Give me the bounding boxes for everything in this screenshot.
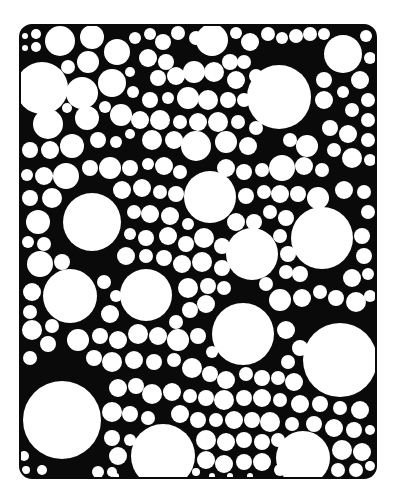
pattern-circle (61, 60, 75, 74)
pattern-circle (236, 454, 252, 470)
pattern-circle (104, 39, 130, 65)
pattern-circle (150, 70, 166, 86)
pattern-circle (255, 163, 269, 177)
pattern-circle (125, 67, 135, 77)
pattern-circle (351, 401, 369, 419)
pattern-circle (92, 466, 104, 478)
pattern-circle (361, 133, 375, 147)
pattern-circle (162, 92, 174, 104)
pattern-circle (212, 303, 274, 365)
pattern-circle (22, 236, 34, 248)
pattern-circle (339, 125, 357, 143)
pattern-circle (292, 266, 308, 282)
pattern-circle (22, 190, 38, 206)
pattern-circle (122, 406, 138, 422)
pattern-circle (364, 154, 376, 166)
pattern-circle (312, 396, 328, 412)
pattern-circle (342, 148, 362, 168)
pattern-circle (271, 371, 285, 385)
pattern-circle (283, 133, 297, 147)
pattern-circle (362, 268, 374, 280)
pattern-circle (346, 422, 362, 438)
pattern-circle (214, 238, 230, 254)
pattern-circle (254, 434, 270, 450)
pattern-circle (128, 378, 144, 394)
pattern-circle (113, 181, 131, 199)
pattern-circle (206, 346, 218, 358)
pattern-circle (183, 61, 205, 83)
pattern-circle (53, 163, 79, 189)
pattern-circle (357, 185, 371, 199)
pattern-circle (173, 115, 187, 129)
pattern-circle (22, 45, 28, 51)
pattern-circle (246, 214, 262, 230)
pattern-circle (42, 188, 62, 208)
pattern-circle (138, 230, 154, 246)
pattern-circle (171, 26, 185, 40)
circle-pattern-artwork (0, 0, 394, 502)
pattern-circle (291, 207, 353, 269)
pattern-circle (208, 112, 228, 132)
pattern-circle (194, 228, 214, 248)
pattern-circle (158, 54, 174, 70)
pattern-circle (182, 302, 198, 318)
pattern-circle (99, 101, 111, 113)
pattern-circle (220, 92, 236, 108)
pattern-circle (292, 340, 308, 356)
pattern-circle (124, 228, 136, 240)
pattern-circle (247, 65, 311, 129)
pattern-circle (197, 295, 215, 313)
pattern-circle (156, 250, 172, 266)
pattern-circle (129, 32, 141, 44)
pattern-circle (306, 416, 322, 432)
pattern-circle (361, 113, 375, 127)
pattern-circle (155, 34, 171, 50)
pattern-circle (274, 464, 286, 476)
pattern-circle (92, 328, 108, 344)
pattern-circle (353, 443, 371, 461)
pattern-circle (190, 412, 206, 428)
pattern-circle (124, 434, 136, 446)
pattern-circle (222, 54, 238, 70)
pattern-circle (80, 25, 104, 49)
pattern-circle (82, 160, 98, 176)
pattern-circle (165, 131, 183, 149)
pattern-circle (117, 247, 135, 265)
pattern-circle (253, 453, 271, 471)
pattern-circle (60, 134, 84, 158)
pattern-circle (45, 26, 75, 56)
pattern-circle (331, 463, 345, 477)
pattern-circle (141, 205, 159, 223)
pattern-circle (101, 305, 119, 323)
pattern-circle (196, 24, 228, 56)
pattern-circle (125, 129, 135, 139)
pattern-circle (66, 77, 98, 109)
pattern-circle (204, 62, 224, 82)
pattern-circle (254, 370, 270, 386)
pattern-circle (365, 425, 375, 435)
pattern-circle (189, 113, 207, 131)
pattern-circle (322, 120, 338, 136)
pattern-circle (289, 29, 303, 43)
pattern-circle (142, 92, 158, 108)
pattern-circle (181, 131, 211, 161)
pattern-circle (177, 87, 199, 109)
pattern-circle (303, 323, 377, 397)
pattern-circle (279, 265, 293, 279)
pattern-circle (45, 319, 59, 333)
pattern-circle (146, 354, 162, 370)
pattern-circle (307, 187, 329, 209)
pattern-circle (33, 109, 63, 139)
pattern-circle (131, 111, 149, 129)
pattern-circle (315, 163, 329, 177)
pattern-circle (41, 141, 59, 159)
pattern-circle (125, 351, 143, 369)
pattern-circle (110, 290, 122, 302)
pattern-circle (31, 42, 41, 52)
pattern-circle (202, 366, 218, 382)
pattern-circle (122, 160, 138, 176)
pattern-circle (40, 336, 56, 352)
pattern-circle (27, 251, 53, 277)
pattern-circle (263, 205, 277, 219)
pattern-circle (225, 411, 243, 429)
